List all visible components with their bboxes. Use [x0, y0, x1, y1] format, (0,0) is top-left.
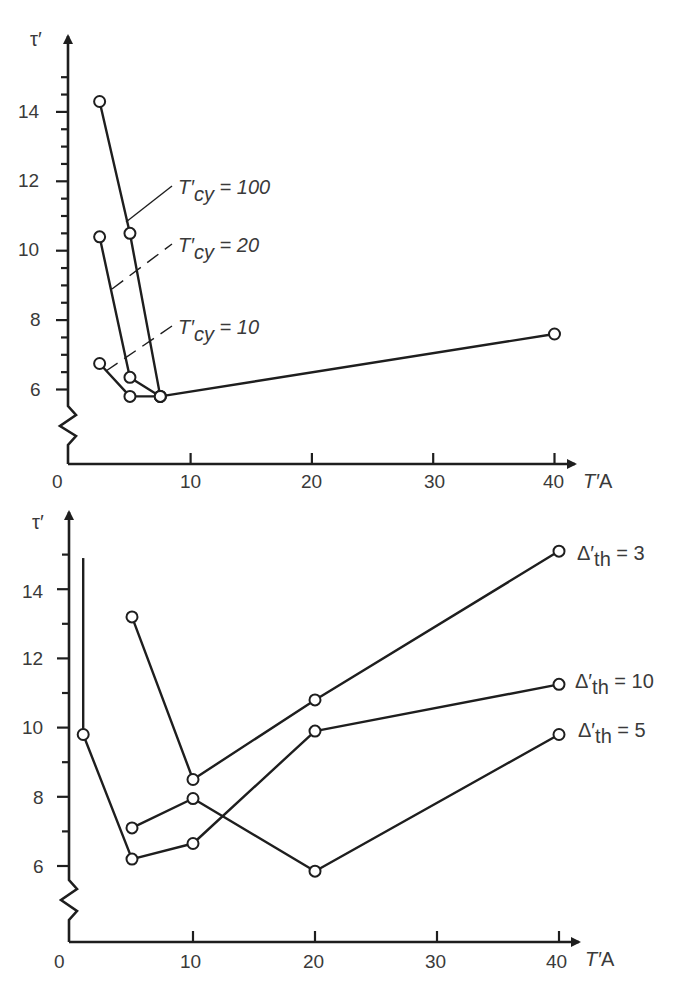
label-tcy-10: T′cy = 10	[178, 316, 259, 345]
top-axis-ticks	[56, 77, 555, 464]
data-point-marker	[188, 774, 199, 785]
leader-line-tcy-10	[106, 326, 172, 371]
data-point-marker	[127, 854, 138, 865]
data-point-marker	[124, 372, 135, 383]
top-x-tick-20: 20	[301, 471, 322, 492]
top-y-tick-10: 10	[18, 239, 39, 260]
data-point-marker	[554, 679, 565, 690]
top-y-tick-14: 14	[18, 101, 40, 122]
bottom-x-axis-label: T′A	[585, 948, 615, 970]
top-y-tick-6: 6	[30, 379, 41, 400]
bottom-x-tick-40: 40	[546, 951, 567, 972]
top-y-tick-8: 8	[30, 309, 41, 330]
bottom-y-axis-label: τ′	[32, 511, 44, 533]
bottom-y-tick-14: 14	[22, 581, 44, 602]
label-dth-3: Δ′th = 3	[577, 542, 645, 570]
figure: τ′ T′A 0 10 20 30 40 14 12 10 8 6 T′cy =…	[0, 0, 699, 994]
bottom-x-tick-10: 10	[180, 951, 201, 972]
data-point-marker	[310, 694, 321, 705]
bottom-series-lines	[78, 546, 565, 877]
data-point-marker	[94, 231, 105, 242]
label-tcy-100: T′cy = 100	[178, 176, 270, 205]
data-point-marker	[94, 358, 105, 369]
top-x-tick-40: 40	[543, 471, 564, 492]
top-chart: τ′ T′A 0 10 20 30 40 14 12 10 8 6 T′cy =…	[18, 28, 613, 492]
label-dth-10: Δ′th = 10	[575, 670, 654, 698]
data-point-marker	[94, 96, 105, 107]
bottom-x-tick-20: 20	[303, 951, 324, 972]
data-point-marker	[310, 866, 321, 877]
bottom-y-tick-10: 10	[22, 717, 43, 738]
series-line	[132, 551, 559, 779]
series-line	[83, 684, 559, 859]
label-dth-5: Δ′th = 5	[578, 719, 646, 747]
series-2	[127, 729, 565, 877]
top-y-axis-label: τ′	[30, 28, 42, 50]
data-point-marker	[124, 391, 135, 402]
data-point-marker	[124, 228, 135, 239]
top-origin-label: 0	[52, 471, 63, 492]
data-point-marker	[188, 793, 199, 804]
data-point-marker	[549, 328, 560, 339]
top-x-tick-10: 10	[180, 471, 201, 492]
data-point-marker	[554, 546, 565, 557]
top-y-tick-12: 12	[18, 170, 39, 191]
top-x-axis-label: T′A	[583, 470, 613, 492]
data-point-marker	[127, 822, 138, 833]
data-point-marker	[188, 838, 199, 849]
top-x-tick-30: 30	[424, 471, 445, 492]
leader-line-tcy-20	[112, 244, 172, 289]
bottom-origin-label: 0	[54, 951, 65, 972]
data-point-marker	[78, 729, 89, 740]
bottom-chart: τ′ T′A 0 10 20 30 40 14 12 10 8 6 Δ′th =…	[22, 511, 654, 972]
bottom-y-tick-12: 12	[22, 648, 43, 669]
data-point-marker	[127, 611, 138, 622]
top-series-lines	[94, 96, 560, 402]
data-point-marker	[310, 726, 321, 737]
series-0	[94, 96, 560, 402]
series-line	[100, 102, 555, 397]
bottom-y-tick-8: 8	[33, 787, 44, 808]
data-point-marker	[155, 391, 166, 402]
series-0	[127, 546, 565, 785]
bottom-x-tick-30: 30	[425, 951, 446, 972]
label-tcy-20: T′cy = 20	[178, 234, 259, 263]
leader-line-tcy-100	[126, 186, 172, 222]
bottom-y-tick-6: 6	[33, 856, 44, 877]
data-point-marker	[554, 729, 565, 740]
